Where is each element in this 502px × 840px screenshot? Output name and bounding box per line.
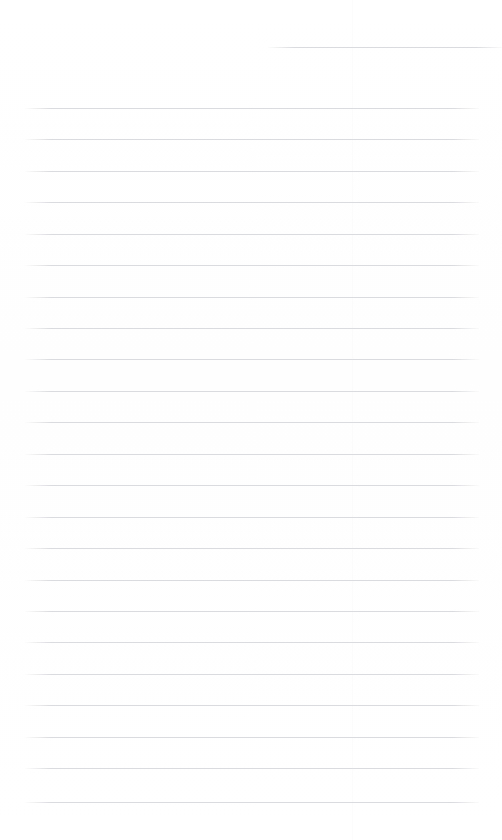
ruled-line-partial bbox=[268, 47, 502, 48]
ruled-line bbox=[25, 422, 479, 423]
ruled-line bbox=[25, 265, 479, 266]
ruled-line bbox=[25, 580, 479, 581]
paper-surface bbox=[0, 0, 502, 840]
ruled-line bbox=[25, 737, 479, 738]
ruled-line bbox=[25, 297, 479, 298]
ruled-line bbox=[25, 802, 479, 803]
ruled-line bbox=[25, 359, 479, 360]
ruled-line bbox=[25, 108, 479, 109]
ruled-line bbox=[25, 768, 479, 769]
ruled-line bbox=[25, 454, 479, 455]
scanned-page bbox=[0, 0, 502, 840]
ruled-line bbox=[25, 171, 479, 172]
ruled-line bbox=[25, 234, 479, 235]
ruled-line bbox=[25, 202, 479, 203]
ruled-line bbox=[25, 548, 479, 549]
ruled-line bbox=[25, 391, 479, 392]
ruled-line bbox=[25, 642, 479, 643]
ruled-line bbox=[25, 517, 479, 518]
ruled-line bbox=[25, 611, 479, 612]
ruled-line bbox=[25, 328, 479, 329]
scan-band bbox=[352, 0, 353, 840]
ruled-line bbox=[25, 674, 479, 675]
ruled-line bbox=[25, 485, 479, 486]
ruled-line bbox=[25, 705, 479, 706]
ruled-line bbox=[25, 139, 479, 140]
